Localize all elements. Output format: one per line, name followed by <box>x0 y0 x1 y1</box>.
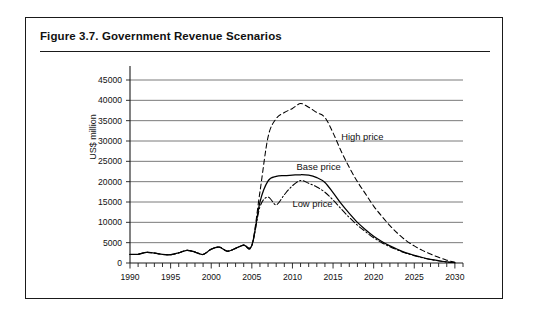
y-tick-label: 45000 <box>98 75 122 85</box>
y-tick-label: 30000 <box>98 136 122 146</box>
annotation-low-price: Low price <box>292 198 332 209</box>
y-tick-label: 5000 <box>103 238 122 248</box>
x-tick-label: 1990 <box>120 272 139 282</box>
annotation-high-price: High price <box>341 131 383 142</box>
y-tick-label: 15000 <box>98 197 122 207</box>
x-tick-label: 2020 <box>364 272 383 282</box>
x-tick-label: 2030 <box>445 272 464 282</box>
series-line-base-price <box>130 175 455 263</box>
x-tick-label: 1995 <box>161 272 180 282</box>
y-tick-label: 20000 <box>98 177 122 187</box>
y-tick-label: 0 <box>117 258 122 268</box>
annotation-base-price: Base price <box>297 161 341 172</box>
y-tick-label: 35000 <box>98 116 122 126</box>
series-line-high-price <box>130 104 455 263</box>
x-tick-labels-group: 199019952000200520102015202020252030 <box>120 272 464 282</box>
x-tick-label: 2025 <box>405 272 424 282</box>
revenue-scenarios-line-chart: 0500010000150002000025000300003500040000… <box>26 18 504 300</box>
x-tick-marks-group <box>130 263 463 269</box>
x-tick-label: 2000 <box>202 272 221 282</box>
series-line-low-price <box>130 180 455 262</box>
figure-card: Figure 3.7. Government Revenue Scenarios… <box>25 17 503 299</box>
x-tick-label: 2015 <box>323 272 342 282</box>
y-tick-label: 40000 <box>98 95 122 105</box>
y-tick-labels-group: 0500010000150002000025000300003500040000… <box>98 75 122 268</box>
y-tick-label: 25000 <box>98 156 122 166</box>
y-tick-label: 10000 <box>98 217 122 227</box>
x-tick-label: 2005 <box>242 272 261 282</box>
x-tick-label: 2010 <box>283 272 302 282</box>
data-series-group <box>130 104 455 263</box>
chart-plot-area: US$ million 0500010000150002000025000300… <box>26 18 504 300</box>
